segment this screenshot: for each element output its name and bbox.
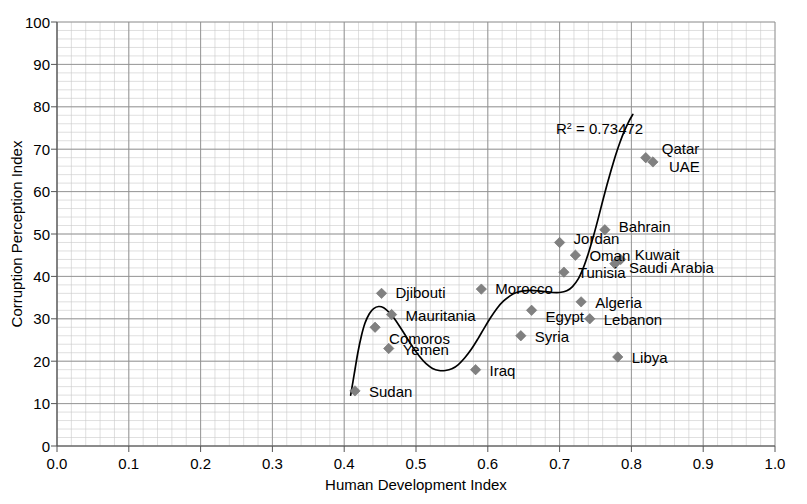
y-tick-label: 30: [33, 310, 50, 327]
data-point-label: Libya: [632, 349, 669, 366]
scatter-chart: 0102030405060708090100 0.00.10.20.30.40.…: [0, 0, 807, 504]
data-point-label: Syria: [535, 328, 570, 345]
x-tick-label: 0.8: [621, 455, 642, 472]
x-tick-label: 0.0: [47, 455, 68, 472]
data-point-label: Jordan: [574, 230, 620, 247]
x-axis-title: Human Development Index: [325, 476, 507, 493]
data-point-label: Egypt: [546, 308, 585, 325]
data-point-label: Djibouti: [396, 284, 446, 301]
y-tick-label: 20: [33, 353, 50, 370]
data-point-label: Tunisia: [578, 264, 626, 281]
y-tick-label: 50: [33, 226, 50, 243]
data-point-label: Mauritania: [406, 307, 477, 324]
y-axis-title: Corruption Perception Index: [8, 140, 25, 327]
chart-background: [0, 0, 807, 504]
data-point-label: UAE: [669, 158, 700, 175]
x-tick-label: 1.0: [765, 455, 786, 472]
chart-container: 0102030405060708090100 0.00.10.20.30.40.…: [0, 0, 807, 504]
data-point-label: Yemen: [403, 341, 449, 358]
y-tick-label: 70: [33, 141, 50, 158]
x-tick-label: 0.6: [477, 455, 498, 472]
data-point-label: Kuwait: [635, 246, 681, 263]
x-tick-label: 0.2: [190, 455, 211, 472]
data-point-label: Sudan: [369, 383, 412, 400]
y-tick-label: 80: [33, 98, 50, 115]
x-tick-label: 0.7: [549, 455, 570, 472]
x-tick-label: 0.4: [334, 455, 355, 472]
data-point-label: Lebanon: [604, 311, 662, 328]
data-point-label: Iraq: [490, 362, 516, 379]
data-point-label: Bahrain: [619, 218, 671, 235]
y-tick-label: 10: [33, 395, 50, 412]
x-tick-label: 0.3: [262, 455, 283, 472]
y-tick-label: 60: [33, 183, 50, 200]
x-tick-label: 0.9: [693, 455, 714, 472]
data-point-label: Algeria: [595, 294, 642, 311]
x-tick-label: 0.5: [406, 455, 427, 472]
y-tick-label: 0: [42, 438, 50, 455]
data-point-label: Oman: [589, 247, 630, 264]
y-tick-label: 90: [33, 56, 50, 73]
x-tick-label: 0.1: [118, 455, 139, 472]
y-tick-label: 40: [33, 268, 50, 285]
data-point-label: Qatar: [662, 140, 700, 157]
data-point-label: Morocco: [495, 280, 553, 297]
y-tick-label: 100: [25, 14, 50, 31]
